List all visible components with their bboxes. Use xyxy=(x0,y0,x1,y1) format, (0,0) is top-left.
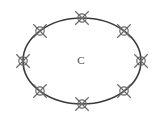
ellipse-diagram: C xyxy=(0,0,163,120)
marker-left xyxy=(16,54,29,67)
marker-bottom-right xyxy=(117,84,130,97)
marker-top xyxy=(75,11,88,24)
marker-bottom-left xyxy=(33,84,46,97)
center-label-c: C xyxy=(77,54,84,66)
marker-bottom xyxy=(75,97,88,110)
marker-top-right xyxy=(117,24,130,37)
figure-canvas: C xyxy=(0,0,163,120)
marker-right xyxy=(134,54,147,67)
marker-top-left xyxy=(33,24,46,37)
